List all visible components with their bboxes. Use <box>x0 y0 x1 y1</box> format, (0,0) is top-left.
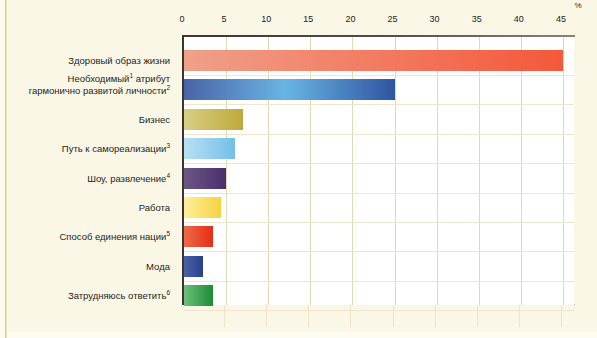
gridline-extension-30 <box>435 305 436 327</box>
gridline-extension-45 <box>561 305 562 327</box>
category-label-2: Бизнес <box>0 114 176 126</box>
row-separator <box>184 281 574 282</box>
row-separator <box>184 222 574 223</box>
category-label-line2: гармонично развитой личности2 <box>0 85 170 97</box>
row-separator <box>184 163 574 164</box>
x-tick-label-35: 35 <box>472 14 482 24</box>
gridline-extension-20 <box>350 305 351 327</box>
x-tick-label-30: 30 <box>430 14 440 24</box>
x-tick-label-10: 10 <box>261 14 271 24</box>
gridline-10 <box>268 37 269 305</box>
gridline-5 <box>226 37 227 305</box>
gridline-extension-25 <box>393 305 394 327</box>
x-tick-label-45: 45 <box>556 14 566 24</box>
gridline-45 <box>563 37 564 305</box>
bar-0[interactable] <box>184 50 563 71</box>
category-label-4: Шоу, развлечение4 <box>0 173 176 185</box>
gridline-extension-5 <box>224 305 225 327</box>
x-tick-label-5: 5 <box>222 14 227 24</box>
gridline-extension-15 <box>308 305 309 327</box>
category-label-5: Работа <box>0 202 176 214</box>
bar-3[interactable] <box>184 138 235 159</box>
x-tick-label-40: 40 <box>514 14 524 24</box>
footnote-marker: 6 <box>166 289 170 296</box>
category-label-8: Затрудняюсь ответить6 <box>0 290 176 302</box>
row-separator <box>184 193 574 194</box>
category-label-0: Здоровый образ жизни <box>0 55 176 67</box>
bar-6[interactable] <box>184 226 213 247</box>
category-label-1: Необходимый1 атрибутгармонично развитой … <box>0 73 176 97</box>
footnote-marker: 5 <box>166 230 170 237</box>
x-tick-label-15: 15 <box>303 14 313 24</box>
gridline-40 <box>521 37 522 305</box>
x-tick-label-0: 0 <box>179 14 184 24</box>
footnote-marker: 3 <box>166 142 170 149</box>
gridline-extension-40 <box>519 305 520 327</box>
x-axis-tick-labels: 051015202530354045 <box>0 14 597 30</box>
row-separator <box>184 104 574 105</box>
bar-7[interactable] <box>184 256 203 277</box>
footnote-marker: 1 <box>129 72 133 79</box>
gridline-extension-10 <box>266 305 267 327</box>
footnote-marker: 2 <box>166 84 170 91</box>
category-label-3: Путь к самореализации3 <box>0 143 176 155</box>
chart-page: 051015202530354045 % Здоровый образ жизн… <box>0 0 597 338</box>
gridline-15 <box>310 37 311 305</box>
footnote-marker: 4 <box>166 171 170 178</box>
gridline-25 <box>395 37 396 305</box>
gridline-20 <box>352 37 353 305</box>
y-axis-category-labels: Здоровый образ жизниНеобходимый1 атрибут… <box>0 37 176 305</box>
gridline-35 <box>479 37 480 305</box>
row-separator <box>184 134 574 135</box>
gridline-30 <box>437 37 438 305</box>
bar-2[interactable] <box>184 109 243 130</box>
row-separator <box>184 75 574 76</box>
bar-5[interactable] <box>184 197 221 218</box>
bar-1[interactable] <box>184 79 395 100</box>
category-label-line1: Необходимый1 атрибут <box>0 73 170 85</box>
category-label-7: Мода <box>0 261 176 273</box>
bar-8[interactable] <box>184 285 213 306</box>
category-label-6: Способ единения нации5 <box>0 231 176 243</box>
plot-area <box>182 37 574 305</box>
gridline-extension-35 <box>477 305 478 327</box>
x-tick-label-20: 20 <box>345 14 355 24</box>
x-tick-label-25: 25 <box>387 14 397 24</box>
bar-4[interactable] <box>184 168 226 189</box>
row-separator <box>184 251 574 252</box>
row-separator <box>184 310 574 311</box>
x-axis-unit-label: % <box>574 1 581 10</box>
